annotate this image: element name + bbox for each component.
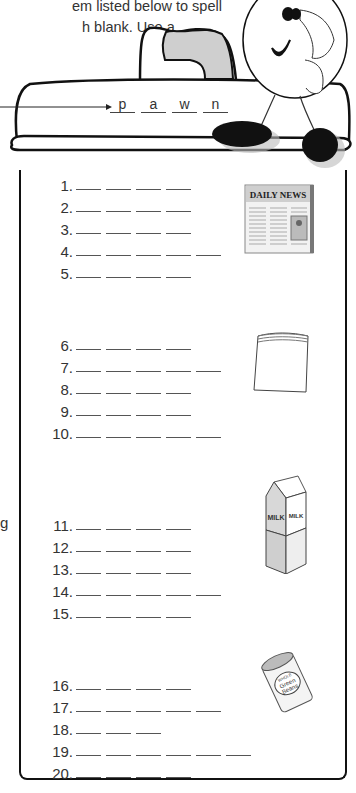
letter-blank[interactable]	[76, 551, 101, 552]
letter-blank[interactable]	[106, 733, 131, 734]
letter-blank[interactable]	[166, 371, 191, 372]
letter-blank[interactable]	[136, 437, 161, 438]
letter-blank[interactable]	[166, 415, 191, 416]
letter-blank[interactable]	[106, 529, 131, 530]
letter-blank[interactable]	[166, 689, 191, 690]
letter-blank[interactable]	[76, 189, 101, 190]
answer-row: 14.	[0, 578, 221, 600]
letter-blank[interactable]	[106, 371, 131, 372]
letter-blank[interactable]	[106, 415, 131, 416]
letter-blank[interactable]	[136, 189, 161, 190]
letter-blank[interactable]	[76, 711, 101, 712]
letter-blank[interactable]	[136, 415, 161, 416]
answer-row: 3.	[0, 216, 191, 238]
milk-carton-icon: MILK MILK	[262, 474, 312, 574]
answer-row: 1.	[0, 172, 191, 194]
letter-blank[interactable]	[106, 617, 131, 618]
letter-blank[interactable]	[136, 371, 161, 372]
letter-blank[interactable]	[166, 755, 191, 756]
green-beans-can-icon: WHOLE Green Beans	[258, 650, 318, 714]
item-number: 1.	[0, 177, 76, 194]
letter-blank[interactable]	[76, 733, 101, 734]
letter-blank[interactable]	[196, 711, 221, 712]
letter-blank[interactable]	[136, 689, 161, 690]
answer-row: 18.	[0, 716, 161, 738]
letter-blank[interactable]	[76, 573, 101, 574]
letter-blank[interactable]	[136, 349, 161, 350]
letter-blank[interactable]	[136, 755, 161, 756]
letter-blank[interactable]	[76, 277, 101, 278]
item-number: 4.	[0, 243, 76, 260]
letter-blank[interactable]	[106, 551, 131, 552]
letter-blank[interactable]	[136, 777, 161, 778]
letter-blank[interactable]	[196, 371, 221, 372]
letter-blank[interactable]	[226, 755, 251, 756]
letter-blank[interactable]	[166, 437, 191, 438]
letter-blank[interactable]	[106, 437, 131, 438]
letter-blank[interactable]	[166, 617, 191, 618]
letter-blank[interactable]	[76, 617, 101, 618]
svg-text:DAILY NEWS: DAILY NEWS	[250, 190, 307, 200]
letter-blank[interactable]	[136, 393, 161, 394]
letter-blank[interactable]	[136, 733, 161, 734]
letter-blank[interactable]	[166, 711, 191, 712]
letter-blank[interactable]	[136, 595, 161, 596]
letter-blank[interactable]	[166, 529, 191, 530]
letter-blank[interactable]	[76, 371, 101, 372]
letter-blank[interactable]	[136, 617, 161, 618]
letter-blank[interactable]	[196, 755, 221, 756]
letter-blank[interactable]	[76, 349, 101, 350]
letter-blank[interactable]	[76, 233, 101, 234]
answer-row: 8.	[0, 376, 191, 398]
letter-blank[interactable]	[76, 255, 101, 256]
item-number: 19.	[0, 743, 76, 760]
letter-blank[interactable]	[166, 573, 191, 574]
letter-blank[interactable]	[166, 277, 191, 278]
letter-blank[interactable]	[76, 529, 101, 530]
letter-blank[interactable]	[166, 393, 191, 394]
letter-blank[interactable]	[106, 573, 131, 574]
letter-blank[interactable]	[76, 755, 101, 756]
item-number: 5.	[0, 265, 76, 282]
letter-blank[interactable]	[106, 233, 131, 234]
letter-blank[interactable]	[166, 595, 191, 596]
letter-blank[interactable]	[106, 689, 131, 690]
letter-blank[interactable]	[106, 595, 131, 596]
letter-blank[interactable]	[166, 777, 191, 778]
letter-blank[interactable]	[196, 437, 221, 438]
letter-blank[interactable]	[106, 349, 131, 350]
letter-blank[interactable]	[76, 689, 101, 690]
letter-blank[interactable]	[106, 755, 131, 756]
letter-blank[interactable]	[106, 277, 131, 278]
letter-blank[interactable]	[166, 233, 191, 234]
letter-blank[interactable]	[196, 595, 221, 596]
item-number: 15.	[0, 605, 76, 622]
letter-blank[interactable]	[136, 277, 161, 278]
letter-blank[interactable]	[166, 189, 191, 190]
letter-blank[interactable]	[106, 393, 131, 394]
letter-blank[interactable]	[136, 211, 161, 212]
letter-blank[interactable]	[106, 777, 131, 778]
letter-blank[interactable]	[166, 349, 191, 350]
letter-blank[interactable]	[166, 211, 191, 212]
letter-blank[interactable]	[76, 437, 101, 438]
letter-blank[interactable]	[136, 711, 161, 712]
letter-blank[interactable]	[76, 415, 101, 416]
letter-blank[interactable]	[106, 711, 131, 712]
letter-blank[interactable]	[76, 595, 101, 596]
letter-blank[interactable]	[76, 393, 101, 394]
letter-blank[interactable]	[196, 255, 221, 256]
letter-blank[interactable]	[106, 255, 131, 256]
letter-blank[interactable]	[136, 233, 161, 234]
letter-blank[interactable]	[166, 551, 191, 552]
letter-blank[interactable]	[106, 189, 131, 190]
letter-blank[interactable]	[136, 551, 161, 552]
letter-blank[interactable]	[76, 211, 101, 212]
letter-blank[interactable]	[166, 255, 191, 256]
letter-blank[interactable]	[106, 211, 131, 212]
letter-blank[interactable]	[136, 529, 161, 530]
letter-blank[interactable]	[136, 255, 161, 256]
letter-blank[interactable]	[136, 573, 161, 574]
letter-blank[interactable]	[76, 777, 101, 778]
answer-row: 6.	[0, 332, 191, 354]
